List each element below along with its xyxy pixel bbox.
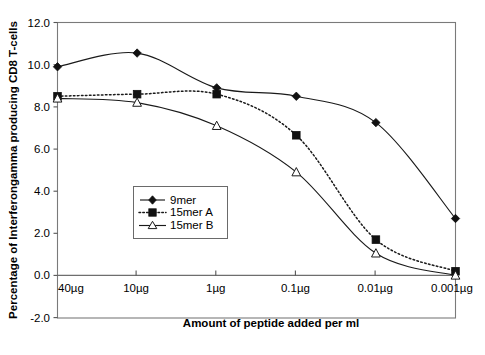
square-marker-icon: [293, 131, 301, 139]
legend-label: 15mer A: [170, 206, 213, 218]
chart-container: 12.0 10.0 8.0 6.0 4.0 2.0 0.0 -2.0 40µg …: [0, 0, 485, 355]
x-tick-label: 0.001µg: [431, 282, 473, 294]
legend-label: 15mer B: [170, 219, 214, 231]
x-tick-label: 0.01µg: [357, 282, 392, 294]
series-layer: [53, 49, 460, 279]
legend-label: 9mer: [170, 194, 196, 206]
series-line: [58, 53, 456, 219]
plot-area-border: [58, 23, 456, 319]
y-tick-label: 2.0: [34, 227, 50, 239]
y-tick-label: -2.0: [30, 312, 50, 324]
y-tick-label: 12.0: [28, 17, 50, 29]
x-axis-ticks: 40µg 10µg 1µg 0.1µg 0.01µg 0.001µg: [58, 270, 473, 294]
x-tick-label: 0.1µg: [281, 282, 310, 294]
series-9mer: [53, 49, 459, 223]
legend: 9mer 15mer A 15mer B: [134, 187, 228, 239]
y-tick-label: 10.0: [28, 59, 50, 71]
square-marker-icon: [213, 90, 221, 98]
square-marker-icon: [149, 209, 156, 216]
triangle-marker-icon: [372, 249, 381, 257]
series-15mer-a: [54, 90, 460, 275]
y-tick-label: 6.0: [34, 143, 50, 155]
y-axis-ticks: 12.0 10.0 8.0 6.0 4.0 2.0 0.0 -2.0: [28, 17, 58, 324]
y-axis-title: Percentage of Interferongamma producing …: [7, 21, 19, 319]
x-axis-title: Amount of peptide added per ml: [183, 317, 359, 329]
square-marker-icon: [372, 236, 380, 244]
y-tick-label: 4.0: [34, 185, 50, 197]
x-tick-label: 10µg: [123, 282, 149, 294]
line-chart: 12.0 10.0 8.0 6.0 4.0 2.0 0.0 -2.0 40µg …: [0, 0, 485, 355]
series-15mer-b: [53, 94, 460, 279]
triangle-marker-icon: [212, 121, 221, 129]
square-marker-icon: [133, 90, 141, 98]
y-tick-label: 8.0: [34, 101, 50, 113]
diamond-marker-icon: [133, 49, 141, 57]
x-tick-label: 40µg: [58, 282, 84, 294]
series-line: [58, 98, 456, 275]
triangle-marker-icon: [292, 168, 301, 176]
diamond-marker-icon: [292, 92, 300, 100]
x-tick-label: 1µg: [206, 282, 225, 294]
diamond-marker-icon: [53, 63, 61, 71]
y-tick-label: 0.0: [34, 269, 50, 281]
series-line: [58, 91, 456, 271]
